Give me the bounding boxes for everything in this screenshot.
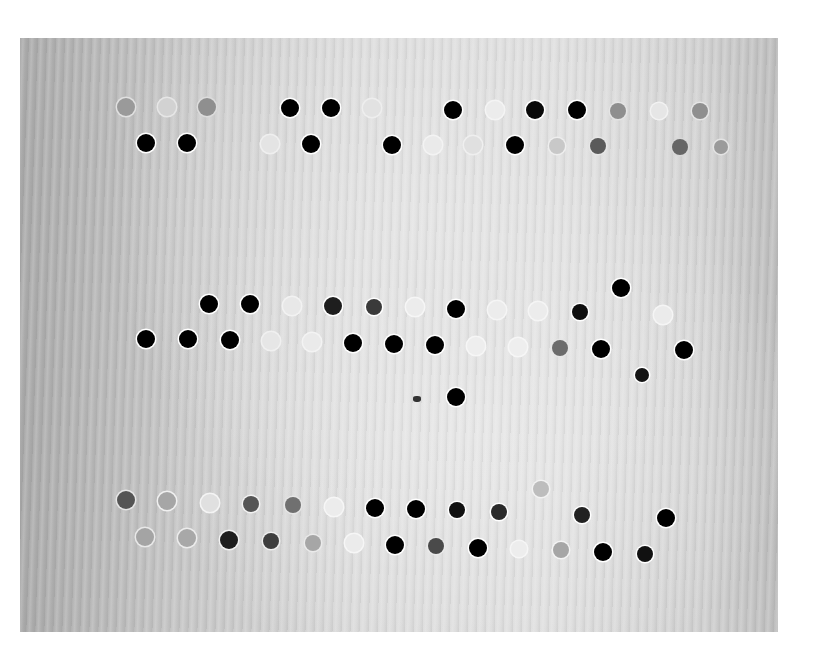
punched-hole [488, 301, 506, 319]
punched-hole [117, 491, 135, 509]
punched-hole [549, 138, 565, 154]
punched-hole [714, 140, 728, 154]
punched-hole [428, 538, 444, 554]
punched-hole [137, 134, 155, 152]
punched-hole [424, 136, 442, 154]
punched-hole [179, 330, 197, 348]
punched-hole [366, 499, 384, 517]
punched-hole [386, 536, 404, 554]
punched-hole [325, 498, 343, 516]
punched-hole [426, 336, 444, 354]
punched-hole [178, 529, 196, 547]
punched-hole [511, 541, 527, 557]
surface-mark [413, 396, 421, 402]
punched-hole [178, 134, 196, 152]
punched-hole [592, 340, 610, 358]
punched-hole [672, 139, 688, 155]
punched-hole [158, 98, 176, 116]
punched-hole [526, 101, 544, 119]
punched-hole [692, 103, 708, 119]
punched-hole [303, 333, 321, 351]
punched-hole [568, 101, 586, 119]
punched-hole [447, 300, 465, 318]
punched-hole [590, 138, 606, 154]
punched-hole [198, 98, 216, 116]
punched-hole [449, 502, 465, 518]
punched-hole [243, 496, 259, 512]
punched-hole [136, 528, 154, 546]
punched-hole [200, 295, 218, 313]
punched-hole [610, 103, 626, 119]
punched-hole [529, 302, 547, 320]
punched-hole [117, 98, 135, 116]
punched-hole [574, 507, 590, 523]
punched-hole [406, 298, 424, 316]
punched-hole [637, 546, 653, 562]
punched-hole [241, 295, 259, 313]
punched-hole [385, 335, 403, 353]
punched-hole [491, 504, 507, 520]
punched-hole [635, 368, 649, 382]
punched-hole [263, 533, 279, 549]
punched-hole [281, 99, 299, 117]
punched-hole [486, 101, 504, 119]
punched-hole [220, 531, 238, 549]
punched-hole [201, 494, 219, 512]
punched-hole [363, 99, 381, 117]
punched-hole [447, 388, 465, 406]
punched-hole [221, 331, 239, 349]
punched-hole [366, 299, 382, 315]
punched-hole [322, 99, 340, 117]
punched-hole [262, 332, 280, 350]
punched-hole [594, 543, 612, 561]
punched-hole [444, 101, 462, 119]
punched-hole [675, 341, 693, 359]
punched-hole [158, 492, 176, 510]
punched-hole [654, 306, 672, 324]
punched-hole [407, 500, 425, 518]
textured-surface-photo [20, 38, 778, 632]
punched-hole [572, 304, 588, 320]
punched-hole [657, 509, 675, 527]
punched-hole [469, 539, 487, 557]
punched-hole [552, 340, 568, 356]
punched-hole [285, 497, 301, 513]
punched-hole [464, 136, 482, 154]
punched-hole [137, 330, 155, 348]
punched-hole [651, 103, 667, 119]
punched-hole [345, 534, 363, 552]
punched-hole [261, 135, 279, 153]
punched-hole [509, 338, 527, 356]
punched-hole [283, 297, 301, 315]
punched-hole [506, 136, 524, 154]
punched-hole [467, 337, 485, 355]
punched-hole [553, 542, 569, 558]
punched-hole [533, 481, 549, 497]
punched-hole [612, 279, 630, 297]
punched-hole [302, 135, 320, 153]
punched-hole [305, 535, 321, 551]
punched-hole [383, 136, 401, 154]
punched-hole [344, 334, 362, 352]
punched-hole [324, 297, 342, 315]
